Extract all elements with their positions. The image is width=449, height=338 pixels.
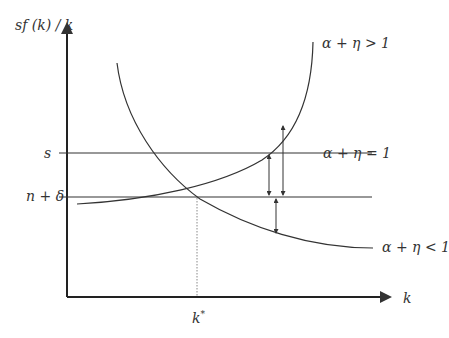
gt1-label: α + η > 1 xyxy=(322,35,390,51)
diagram: sf (k) / k k s n + δ k* α + η > 1 α + η … xyxy=(0,0,449,338)
y-axis-label: sf (k) / k xyxy=(15,17,73,33)
s-tick-label: s xyxy=(44,145,51,161)
kstar-tick-label: k* xyxy=(192,309,205,326)
lt1-label: α + η < 1 xyxy=(382,239,449,255)
eq1-label: α + η = 1 xyxy=(323,145,391,161)
n-delta-tick-label: n + δ xyxy=(26,188,64,204)
x-axis-label: k xyxy=(403,290,411,306)
curve-alpha-eta-gt-1 xyxy=(77,42,313,204)
